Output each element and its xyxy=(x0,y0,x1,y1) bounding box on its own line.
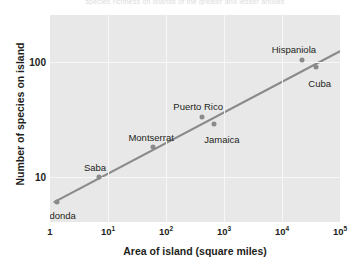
point-label-jamaica: Jamaica xyxy=(204,134,239,145)
x-gridline xyxy=(224,15,225,222)
point-label-hispaniola: Hispaniola xyxy=(272,44,316,55)
x-tick-label: 101 xyxy=(101,226,115,237)
y-gridline xyxy=(50,62,340,63)
x-gridline xyxy=(108,15,109,222)
x-tick-label: 105 xyxy=(333,226,347,237)
data-point-montserrat xyxy=(151,145,156,150)
data-point-puerto-rico xyxy=(200,115,205,120)
y-gridline xyxy=(50,177,340,178)
x-tick-label: 104 xyxy=(275,226,289,237)
x-tick-label: 1 xyxy=(47,226,52,237)
point-label-saba: Saba xyxy=(84,162,106,173)
point-label-montserrat: Montserrat xyxy=(128,132,173,143)
point-label-redonda: Redonda xyxy=(50,210,76,221)
x-tick-label: 103 xyxy=(217,226,231,237)
cut-off-header-text: species richness on islands of the great… xyxy=(55,0,315,5)
point-label-cuba: Cuba xyxy=(308,78,331,89)
x-tick-label: 102 xyxy=(159,226,173,237)
species-area-chart: species richness on islands of the great… xyxy=(0,0,359,272)
data-point-cuba xyxy=(313,64,318,69)
plot-area: RedondaSabaMontserratPuerto RicoJamaicaH… xyxy=(50,15,340,222)
data-point-jamaica xyxy=(211,121,216,126)
data-point-saba xyxy=(97,174,102,179)
x-axis-title: Area of island (square miles) xyxy=(50,245,340,257)
data-point-redonda xyxy=(54,199,59,204)
x-gridline xyxy=(166,15,167,222)
data-point-hispaniola xyxy=(299,57,304,62)
y-axis-title: Number of species on island xyxy=(14,14,26,214)
point-label-puerto-rico: Puerto Rico xyxy=(173,101,223,112)
